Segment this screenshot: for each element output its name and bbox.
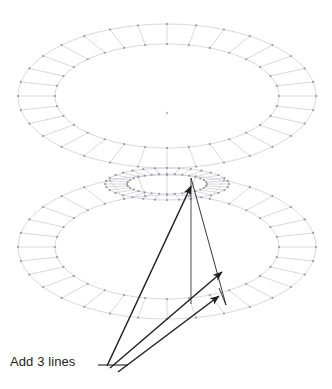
mesh-vertex: [87, 283, 89, 285]
mesh-vertex: [259, 217, 261, 219]
mesh-vertex: [245, 132, 247, 134]
ring-spoke: [229, 139, 250, 156]
ring-spoke: [260, 207, 291, 218]
mesh-vertex: [158, 173, 160, 175]
mesh-vertex: [223, 312, 225, 314]
mesh-vertex: [269, 226, 271, 228]
ring-spoke: [182, 169, 190, 175]
mesh-vertex: [144, 297, 146, 299]
ring-spoke: [110, 295, 124, 313]
arrow-to-mid-right[interactable]: [110, 272, 222, 368]
mesh-vertex: [304, 218, 306, 220]
added-lines-group[interactable]: [107, 186, 222, 372]
arrow-to-hub-top[interactable]: [107, 186, 191, 366]
mesh-vertex: [123, 47, 125, 49]
ring-spoke: [277, 233, 313, 237]
mesh-vertex: [315, 95, 317, 97]
mesh-vertex: [166, 167, 168, 169]
mesh-vertex: [304, 67, 306, 69]
ring-spoke: [260, 276, 291, 287]
ring-spoke: [106, 186, 128, 187]
mesh-vertex: [188, 146, 190, 148]
mesh-vertex: [122, 194, 124, 196]
mesh-vertex: [271, 195, 273, 197]
mesh-vertex: [174, 173, 176, 175]
mesh-vertex: [276, 236, 278, 238]
mesh-vertex: [104, 138, 106, 140]
mesh-vertex: [56, 236, 58, 238]
mesh-vertex: [178, 199, 180, 201]
ring-spoke: [260, 56, 291, 67]
ring-spoke: [189, 171, 201, 176]
mesh-vertex: [83, 306, 85, 308]
mesh-vertex: [269, 266, 271, 268]
mesh-vertex: [20, 81, 22, 83]
mesh-vertex: [20, 109, 22, 111]
mesh-vertex: [217, 192, 219, 194]
mesh-vertex: [61, 146, 63, 148]
ring-spoke: [84, 290, 105, 307]
mesh-vertex: [114, 174, 116, 176]
mesh-vertex: [83, 35, 85, 37]
mesh-vertex: [114, 192, 116, 194]
mesh-vertex: [200, 170, 202, 172]
mesh-vertex: [42, 206, 44, 208]
mesh-vertex: [17, 95, 19, 97]
ring-spoke: [246, 45, 272, 59]
ring-spoke: [29, 267, 63, 275]
ring-spoke: [246, 133, 272, 147]
ring-spoke: [84, 139, 105, 156]
ring-spoke: [195, 191, 211, 195]
mesh-vertex: [104, 183, 106, 185]
mesh-vertex: [290, 55, 292, 57]
mesh-vertex: [205, 181, 207, 183]
ring-spoke: [270, 267, 304, 275]
mesh-vertex: [28, 218, 30, 220]
mesh-vertex: [228, 203, 230, 205]
mesh-vertex: [290, 135, 292, 137]
mesh-vertex: [199, 177, 201, 179]
mesh-vertex: [138, 190, 140, 192]
mesh-vertex: [109, 189, 111, 191]
mesh-vertex: [205, 185, 207, 187]
ring-spoke: [229, 187, 250, 204]
mesh-vertex: [271, 146, 273, 148]
edge-base-right-vertical: [219, 288, 226, 305]
ring-spoke: [270, 116, 304, 124]
mesh-vertex: [209, 143, 211, 145]
mesh-vertex: [144, 146, 146, 148]
mesh-vertex: [190, 168, 192, 170]
mesh-vertex: [73, 124, 75, 126]
ring-spoke: [110, 29, 124, 47]
mesh-vertex: [127, 181, 129, 183]
mesh-vertex: [269, 115, 271, 117]
ring-spoke: [62, 196, 88, 210]
mesh-vertex: [166, 43, 168, 45]
mesh-vertex: [228, 183, 230, 185]
ring-spoke: [195, 173, 211, 177]
ring-spoke: [106, 181, 128, 182]
ring-spoke: [62, 284, 88, 298]
mesh-vertex: [210, 172, 212, 174]
mesh-vertex: [158, 193, 160, 195]
mesh-vertex: [249, 35, 251, 37]
ring-spoke: [43, 56, 74, 67]
ring-spoke: [138, 25, 145, 45]
arrow-to-lower-right[interactable]: [118, 296, 219, 372]
ring-spoke: [43, 125, 74, 136]
ring-spoke: [229, 290, 250, 307]
mesh-vertex: [138, 176, 140, 178]
mesh-vertex: [83, 155, 85, 157]
mesh-vertex: [217, 174, 219, 176]
mesh-vertex: [54, 246, 56, 248]
mesh-vertex: [109, 161, 111, 163]
mesh-vertex: [223, 28, 225, 30]
ring-spoke: [277, 82, 313, 86]
mesh-vertex: [20, 232, 22, 234]
mesh-vertex: [249, 186, 251, 188]
mesh-vertex: [144, 191, 146, 193]
mesh-vertex: [181, 174, 183, 176]
ring-spoke: [210, 29, 224, 47]
edge-hub-to-base-right: [191, 178, 226, 305]
mesh-vertex: [166, 298, 168, 300]
